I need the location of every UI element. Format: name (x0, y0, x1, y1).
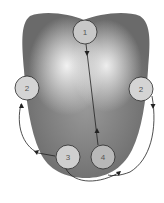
svg-text:4: 4 (101, 153, 106, 162)
point-4: 4 (91, 145, 115, 169)
tongue-diagram: 1 2 2 3 4 (0, 0, 164, 203)
point-1: 1 (73, 20, 97, 44)
point-3: 3 (56, 145, 80, 169)
arrow-down-icon (151, 104, 156, 109)
svg-text:2: 2 (139, 85, 144, 94)
point-2-right: 2 (129, 77, 153, 101)
point-2-left: 2 (15, 76, 39, 100)
svg-text:1: 1 (83, 28, 88, 37)
svg-text:3: 3 (66, 153, 71, 162)
arrow-up-icon (19, 103, 24, 108)
svg-text:2: 2 (25, 84, 30, 93)
